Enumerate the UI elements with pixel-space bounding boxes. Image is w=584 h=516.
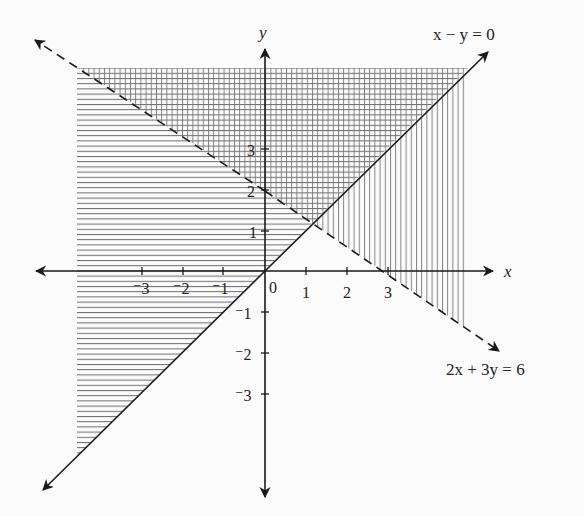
x-tick-label: ⁻3 bbox=[133, 280, 149, 297]
origin-label: 0 bbox=[269, 279, 277, 296]
x-tick-label: 3 bbox=[384, 284, 392, 301]
x-tick-label: 1 bbox=[302, 284, 310, 301]
equation-label-solid: x − y = 0 bbox=[433, 25, 495, 44]
y-tick-label: 2 bbox=[247, 183, 255, 200]
y-axis-label: y bbox=[257, 23, 267, 42]
y-tick-label: ⁻1 bbox=[235, 305, 251, 322]
y-tick-label: 1 bbox=[249, 224, 257, 241]
x-tick-label: 2 bbox=[343, 284, 351, 301]
y-tick-label: ⁻2 bbox=[235, 346, 251, 363]
x-tick-label: ⁻1 bbox=[212, 280, 228, 297]
x-tick-label: ⁻2 bbox=[173, 280, 189, 297]
y-tick-label: 3 bbox=[247, 142, 255, 159]
x-axis-label: x bbox=[503, 262, 512, 281]
equation-label-dashed: 2x + 3y = 6 bbox=[446, 360, 525, 379]
graph-canvas: y x 0 ⁻3 ⁻2 ⁻1 1 2 3 3 2 1 ⁻1 ⁻2 ⁻3 x − … bbox=[0, 0, 584, 516]
y-tick-label: ⁻3 bbox=[235, 387, 251, 404]
inequality-graph: y x 0 ⁻3 ⁻2 ⁻1 1 2 3 3 2 1 ⁻1 ⁻2 ⁻3 x − … bbox=[0, 0, 584, 516]
